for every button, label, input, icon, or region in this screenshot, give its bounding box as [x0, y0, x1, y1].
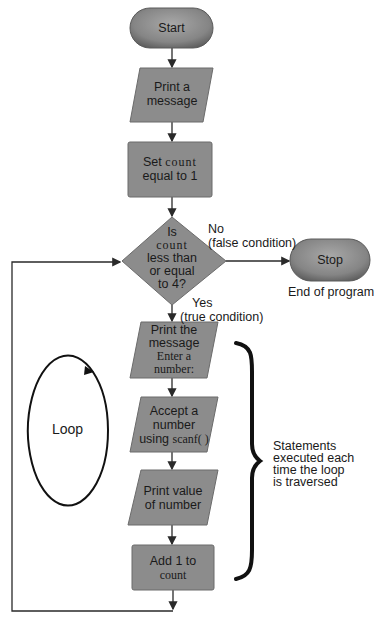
no-branch-label: No (false condition) [208, 222, 296, 250]
print-value-line1: Print value [132, 484, 214, 498]
print-prompt-code2: number: [133, 363, 215, 376]
statements-note: Statements executed each time the loop i… [273, 440, 354, 488]
accept-number-line2: number [133, 418, 215, 432]
yes-branch-label: Yes (true condition) [180, 296, 263, 324]
print-prompt-label: Print the message Enter a number: [133, 324, 215, 376]
set-count-label: Set count equal to 1 [128, 155, 212, 183]
accept-number-label: Accept a number using scanf( ) [133, 404, 215, 446]
print-message-line2: message [132, 94, 212, 108]
accept-number-code: scanf( ) [173, 432, 209, 446]
set-count-prefix: Set [143, 155, 165, 169]
curly-brace [236, 343, 260, 579]
stop-label: Stop [290, 253, 370, 267]
decision-line5: to 4? [132, 278, 212, 291]
end-of-program-label: End of program [288, 285, 374, 299]
print-message-line1: Print a [132, 80, 212, 94]
start-label: Start [130, 21, 213, 35]
accept-number-prefix: using [139, 432, 172, 446]
set-count-line2: equal to 1 [128, 169, 212, 183]
yes-label: Yes [180, 296, 263, 310]
no-label: No [208, 222, 296, 236]
print-value-label: Print value of number [132, 484, 214, 512]
statements-note-line4: is traversed [273, 476, 354, 488]
true-condition-label: (true condition) [180, 310, 263, 324]
loop-label: Loop [52, 422, 83, 436]
false-condition-label: (false condition) [208, 236, 296, 250]
add-one-line1: Add 1 to [132, 554, 214, 568]
print-message-label: Print a message [132, 80, 212, 108]
add-one-code: count [132, 568, 214, 582]
set-count-code: count [165, 155, 197, 169]
add-one-label: Add 1 to count [132, 554, 214, 582]
accept-number-line1: Accept a [133, 404, 215, 418]
decision-label: Is count less than or equal to 4? [132, 226, 212, 291]
print-value-line2: of number [132, 498, 214, 512]
